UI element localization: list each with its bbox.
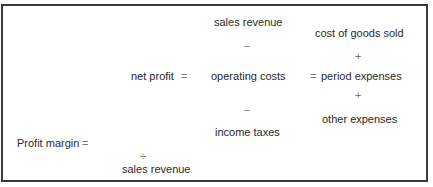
- plus-operator-2: +: [355, 89, 361, 101]
- equals-sign-3: =: [82, 137, 88, 149]
- net-profit-label: net profit: [131, 70, 174, 82]
- profit-margin-label: Profit margin: [17, 137, 79, 149]
- sales-revenue-divisor: sales revenue: [122, 163, 191, 175]
- minus-operator-2: –: [244, 103, 250, 115]
- equals-sign-1: =: [181, 70, 187, 82]
- equals-sign-2: =: [310, 70, 316, 82]
- operating-costs-term: operating costs: [211, 70, 286, 82]
- period-expenses-term: period expenses: [321, 70, 402, 82]
- sales-revenue-term: sales revenue: [214, 16, 283, 28]
- plus-operator-1: +: [355, 50, 361, 62]
- minus-operator-1: –: [244, 39, 250, 51]
- other-expenses-term: other expenses: [322, 113, 397, 125]
- income-taxes-term: income taxes: [215, 126, 280, 138]
- divide-operator: ÷: [140, 150, 146, 162]
- cost-of-goods-sold-term: cost of goods sold: [315, 27, 404, 39]
